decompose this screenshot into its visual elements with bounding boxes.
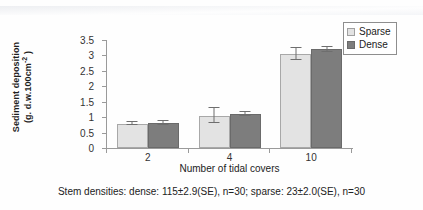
legend-item-dense[interactable]: Dense [347, 38, 391, 51]
bar-group-bars [189, 40, 271, 148]
bar-sparse[interactable] [117, 40, 148, 148]
bar-rect-dense [148, 123, 179, 148]
legend-label-dense: Dense [359, 39, 388, 50]
y-axis-title-line2: (g. d.w.100cm [23, 63, 33, 123]
legend-item-sparse[interactable]: Sparse [347, 25, 391, 38]
bar-dense[interactable] [148, 40, 179, 148]
bar-sparse[interactable] [199, 40, 230, 148]
x-axis-line [106, 148, 353, 149]
y-axis-tick-label: 1.5 [80, 96, 94, 107]
legend-label-sparse: Sparse [359, 26, 391, 37]
y-axis-tick-label: 2 [88, 81, 94, 92]
figure-caption: Stem densities: dense: 115±2.9(SE), n=30… [0, 186, 423, 197]
bar-rect-dense [311, 49, 342, 148]
error-bar-cap-sparse [209, 107, 220, 108]
y-axis-title-line1: Sediment deposition [11, 42, 21, 132]
error-bar-cap-sparse [290, 59, 301, 60]
bar-rect-sparse [117, 124, 148, 148]
error-bar-cap-sparse [127, 124, 138, 125]
bar-rect-sparse [280, 54, 311, 148]
error-bar-cap-dense [240, 115, 251, 116]
y-axis-title-line2-end: ) [23, 51, 33, 57]
legend: Sparse Dense [343, 22, 397, 55]
bar-groups: 2410 [107, 40, 352, 148]
bar-dense[interactable] [230, 40, 261, 148]
error-bar-cap-dense [158, 120, 169, 121]
bar-group: 2 [107, 40, 189, 148]
bar-group: 10 [270, 40, 352, 148]
bar-group-bars [270, 40, 352, 148]
bar-rect-dense [230, 114, 261, 148]
bar-dense[interactable] [311, 40, 342, 148]
error-bar-sparse [214, 108, 215, 123]
y-axis-tick-label: 3.5 [80, 35, 94, 46]
y-axis-title: Sediment deposition (g. d.w.100cm-2 ) [0, 22, 44, 152]
error-bar-cap-dense [240, 111, 251, 112]
y-axis-tick-label: 1 [88, 112, 94, 123]
bar-group: 4 [189, 40, 271, 148]
error-bar-cap-dense [321, 51, 332, 52]
x-axis-title: Number of tidal covers [107, 163, 352, 174]
error-bar-cap-sparse [290, 47, 301, 48]
y-axis-tick-label: 2.5 [80, 65, 94, 76]
x-axis-category-label: 2 [107, 152, 189, 163]
plot-area: 00.511.522.533.5 2410 [107, 40, 352, 148]
error-bar-cap-dense [158, 124, 169, 125]
y-axis-tick-label: 0 [88, 143, 94, 154]
y-axis-title-exponent: -2 [21, 57, 28, 63]
legend-swatch-sparse-icon [347, 28, 355, 36]
y-axis-tick-label: 0.5 [80, 127, 94, 138]
x-axis-category-label: 4 [189, 152, 271, 163]
bar-sparse[interactable] [280, 40, 311, 148]
error-bar-cap-sparse [209, 122, 220, 123]
y-axis-tick-label: 3 [88, 50, 94, 61]
legend-swatch-dense-icon [347, 41, 355, 49]
bar-group-bars [107, 40, 189, 148]
bar-chart-figure: Sediment deposition (g. d.w.100cm-2 ) 00… [0, 0, 423, 210]
error-bar-cap-dense [321, 46, 332, 47]
x-axis-category-label: 10 [270, 152, 352, 163]
error-bar-cap-sparse [127, 121, 138, 122]
